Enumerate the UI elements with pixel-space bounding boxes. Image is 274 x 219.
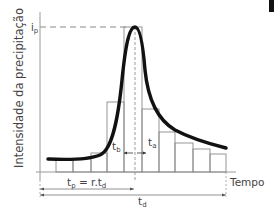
peak-label: ip	[31, 22, 39, 35]
bar	[73, 159, 91, 172]
td-arrow-left	[40, 194, 44, 197]
hyetograph-curve	[48, 27, 226, 160]
td-arrow-right	[222, 194, 226, 197]
bar	[159, 132, 175, 172]
tp-arrow-right	[130, 188, 134, 191]
bar	[210, 154, 226, 172]
histogram-bars	[56, 27, 226, 172]
ta-arrowhead	[143, 152, 146, 155]
bar	[107, 102, 124, 172]
y-axis-label: Intensidade da precipitação	[12, 8, 26, 168]
tb-label: tb	[112, 140, 121, 154]
bar	[175, 143, 193, 172]
corner-mark	[269, 0, 274, 12]
tp-label: tp = r.td	[67, 176, 106, 190]
x-axis-label: Tempo	[229, 176, 264, 188]
ta-label: ta	[148, 136, 156, 150]
bar	[193, 149, 210, 172]
hyetograph-diagram: Intensidade da precipitação Tempo ip tb …	[0, 0, 274, 219]
tp-arrow-left	[40, 188, 44, 191]
td-label: td	[138, 195, 147, 209]
